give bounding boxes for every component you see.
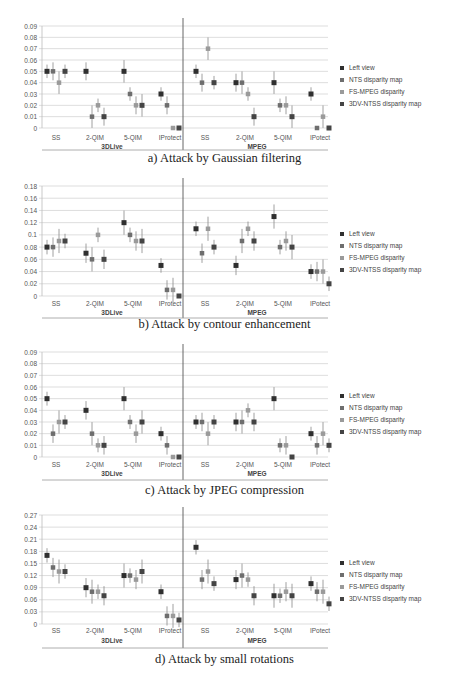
data-point [84, 585, 89, 590]
category-label: 2-QIM [236, 627, 254, 635]
data-point [200, 577, 205, 582]
chart-panel-d: 00.030.060.090.120.150.180.210.240.27SSS… [0, 0, 449, 676]
group-label: 3DLive [101, 637, 123, 644]
legend-swatch [340, 573, 344, 577]
y-tick-label: 0 [33, 621, 37, 628]
y-tick-label: 0.09 [24, 584, 37, 591]
data-point [252, 593, 257, 598]
legend-label: Left view [349, 559, 375, 566]
legend-swatch [340, 597, 344, 601]
category-label: 2-QIM [86, 627, 104, 635]
category-label: SS [201, 627, 210, 634]
data-point [102, 593, 107, 598]
y-tick-label: 0.18 [24, 548, 37, 555]
data-point [57, 569, 62, 574]
data-point [194, 545, 199, 550]
data-point [327, 601, 332, 606]
data-point [171, 614, 176, 619]
data-point [96, 589, 101, 594]
y-tick-label: 0.03 [24, 608, 37, 615]
data-point [246, 577, 251, 582]
legend-swatch [340, 585, 344, 589]
data-point [177, 617, 182, 622]
data-point [321, 589, 326, 594]
data-point [212, 581, 217, 586]
data-point [315, 589, 320, 594]
chart-small-rotations: 00.030.060.090.120.150.180.210.240.27SSS… [0, 0, 449, 676]
category-label: 5-QIM [124, 627, 142, 635]
y-tick-label: 0.06 [24, 596, 37, 603]
data-point [90, 589, 95, 594]
data-point [290, 593, 295, 598]
y-tick-label: 0.24 [24, 524, 37, 531]
data-point [128, 573, 133, 578]
category-label: 5-QIM [274, 627, 292, 635]
data-point [63, 569, 68, 574]
legend-label: NTS disparity map [349, 571, 403, 579]
data-point [45, 553, 50, 558]
data-point [165, 614, 170, 619]
legend-label: FS-MPEG disparity [349, 583, 405, 591]
data-point [234, 577, 239, 582]
data-point [309, 581, 314, 586]
data-point [272, 593, 277, 598]
data-point [159, 589, 164, 594]
caption-d: d) Attack by small rotations [0, 652, 449, 667]
y-tick-label: 0.27 [24, 512, 37, 519]
data-point [51, 565, 56, 570]
group-label: MPEG [247, 637, 266, 644]
y-tick-label: 0.12 [24, 572, 37, 579]
data-point [240, 573, 245, 578]
data-point [134, 577, 139, 582]
category-label: SS [52, 627, 61, 634]
data-point [122, 573, 127, 578]
y-tick-label: 0.15 [24, 560, 37, 567]
y-tick-label: 0.21 [24, 536, 37, 543]
legend-label: 3DV-NTSS disparity map [349, 595, 422, 603]
category-label: IPotect [310, 627, 330, 634]
data-point [206, 569, 211, 574]
legend-swatch [340, 561, 344, 565]
data-point [140, 569, 145, 574]
data-point [278, 593, 283, 598]
category-label: IProtect [159, 627, 182, 634]
data-point [284, 589, 289, 594]
